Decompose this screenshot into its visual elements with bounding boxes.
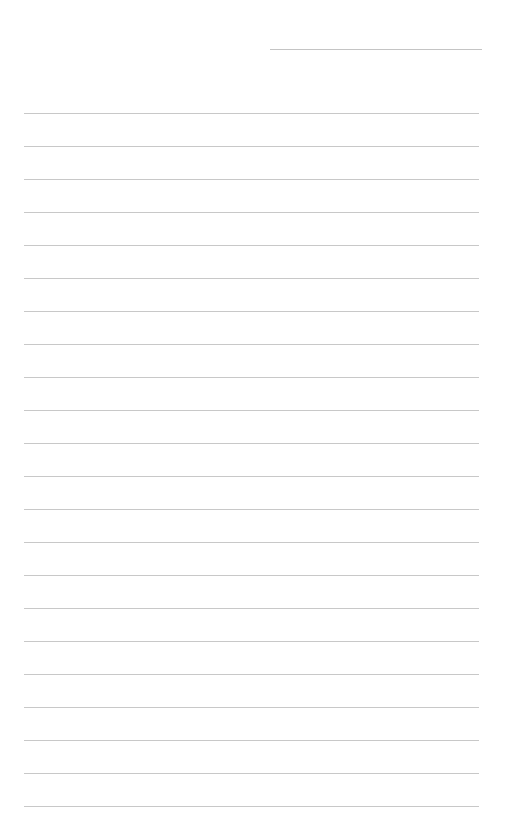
ruled-line	[24, 377, 479, 378]
ruled-line	[24, 641, 479, 642]
ruled-line	[24, 278, 479, 279]
ruled-line	[24, 674, 479, 675]
ruled-line	[24, 443, 479, 444]
ruled-line	[24, 311, 479, 312]
ruled-line	[24, 575, 479, 576]
ruled-line	[24, 344, 479, 345]
ruled-line	[24, 146, 479, 147]
ruled-line	[24, 542, 479, 543]
ruled-line	[24, 773, 479, 774]
ruled-line	[24, 608, 479, 609]
ruled-line	[24, 245, 479, 246]
ruled-line	[24, 707, 479, 708]
ruled-line	[24, 113, 479, 114]
header-name-line	[270, 49, 482, 50]
ruled-line	[24, 179, 479, 180]
ruled-line	[24, 509, 479, 510]
ruled-line	[24, 740, 479, 741]
ruled-line	[24, 476, 479, 477]
ruled-line	[24, 806, 479, 807]
ruled-line	[24, 410, 479, 411]
ruled-line	[24, 212, 479, 213]
